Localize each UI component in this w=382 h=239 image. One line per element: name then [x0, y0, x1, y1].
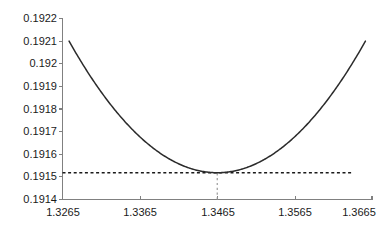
y-tick-label: 0.1916	[23, 148, 57, 160]
y-tick-label: 0.1921	[23, 35, 57, 47]
y-axis	[59, 18, 63, 200]
y-tick-label: 0.1922	[23, 12, 57, 24]
x-axis-tick-labels: 1.3265 1.3365 1.3465 1.3565 1.3665	[46, 206, 376, 218]
x-tick-label: 1.3465	[201, 206, 235, 218]
y-axis-tick-labels: 0.1922 0.1921 0.192 0.1919 0.1918 0.1917…	[23, 12, 57, 205]
y-tick-label: 0.1915	[23, 170, 57, 182]
x-tick-label: 1.3565	[278, 206, 312, 218]
reference-lines	[63, 173, 353, 200]
y-tick-label: 0.1914	[23, 193, 57, 205]
y-tick-label: 0.1918	[23, 103, 57, 115]
y-tick-label: 0.1917	[23, 125, 57, 137]
y-tick-label: 0.192	[29, 57, 57, 69]
chart-canvas: 0.1922 0.1921 0.192 0.1919 0.1918 0.1917…	[0, 0, 382, 239]
objective-curve	[69, 41, 365, 173]
x-tick-label: 1.3365	[123, 206, 157, 218]
x-tick-label: 1.3265	[46, 206, 80, 218]
x-tick-label: 1.3665	[342, 206, 376, 218]
y-tick-label: 0.1919	[23, 80, 57, 92]
